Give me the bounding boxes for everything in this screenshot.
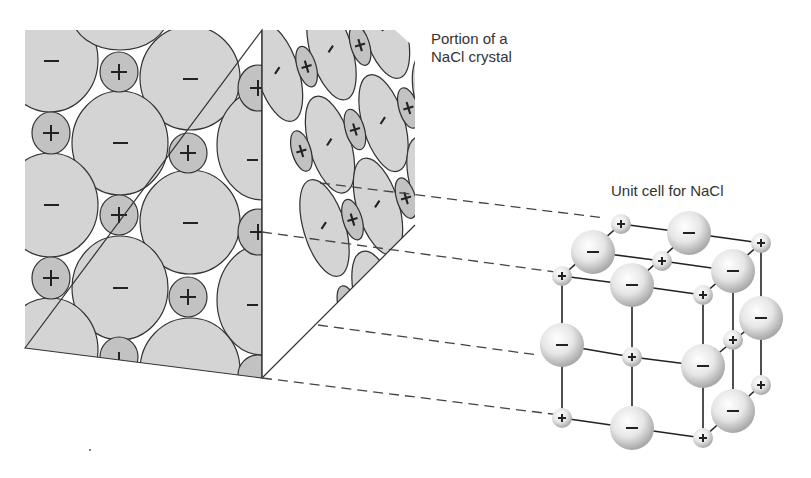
unit-cell-label: Unit cell for NaCl <box>611 182 724 200</box>
nacl-diagram <box>0 0 811 478</box>
crystal-front-face <box>2 0 307 422</box>
stray-dot <box>89 449 91 451</box>
crystal-portion-label: Portion of a NaCl crystal <box>431 30 521 66</box>
unit-cell <box>540 211 783 450</box>
